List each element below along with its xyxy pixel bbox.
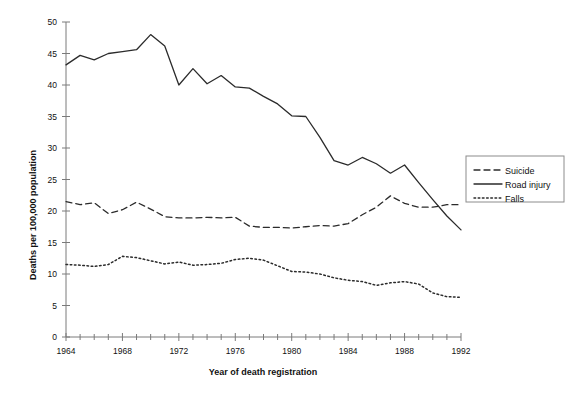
y-tick-label: 15: [48, 238, 58, 248]
x-axis-ticks: 19641968197219761980198419881992: [57, 333, 471, 356]
chart-legend: SuicideRoad injuryFalls: [466, 156, 564, 204]
line-chart: 05101520253035404550 1964196819721976198…: [0, 0, 578, 396]
x-tick-label: 1980: [282, 346, 301, 356]
y-tick-label: 5: [52, 301, 57, 311]
x-tick-label: 1968: [113, 346, 132, 356]
y-tick-label: 35: [48, 112, 58, 122]
series-line-road-injury: [66, 35, 461, 230]
x-tick-label: 1988: [395, 346, 414, 356]
legend-label-road-injury: Road injury: [505, 180, 551, 190]
y-tick-label: 40: [48, 80, 58, 90]
y-tick-label: 20: [48, 206, 58, 216]
y-tick-label: 0: [52, 332, 57, 342]
chart-figure: 05101520253035404550 1964196819721976198…: [0, 0, 578, 396]
legend-label-falls: Falls: [505, 194, 525, 204]
x-tick-label: 1984: [339, 346, 358, 356]
series-line-suicide: [66, 196, 461, 228]
y-axis-ticks: 05101520253035404550: [48, 17, 70, 342]
series-line-falls: [66, 256, 461, 297]
y-axis-title: Deaths per 100,000 population: [28, 150, 38, 280]
y-tick-label: 50: [48, 17, 58, 27]
x-tick-label: 1964: [57, 346, 76, 356]
data-series-group: [66, 35, 461, 298]
x-tick-label: 1976: [226, 346, 245, 356]
y-tick-label: 45: [48, 49, 58, 59]
y-tick-label: 30: [48, 143, 58, 153]
legend-label-suicide: Suicide: [505, 166, 535, 176]
y-tick-label: 10: [48, 269, 58, 279]
x-tick-label: 1992: [452, 346, 471, 356]
y-tick-label: 25: [48, 175, 58, 185]
x-axis-title: Year of death registration: [209, 367, 318, 377]
x-tick-label: 1972: [169, 346, 188, 356]
